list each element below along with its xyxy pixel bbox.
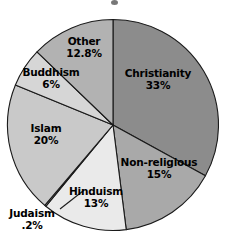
slice-label-other-name: Other	[53, 36, 115, 48]
slice-label-hinduism-name: Hinduism	[59, 186, 133, 198]
slice-label-judaism-value: .2%	[1, 220, 63, 232]
slice-label-islam: Islam 20%	[15, 123, 77, 147]
slice-label-nonreligious-name: Non-religious	[113, 157, 205, 169]
slice-label-nonreligious-value: 15%	[113, 169, 205, 181]
cropped-title-artifact	[111, 0, 118, 5]
slice-label-islam-value: 20%	[15, 135, 77, 147]
slice-label-buddhism-value: 6%	[14, 79, 88, 91]
slice-label-hinduism: Hinduism 13%	[59, 186, 133, 210]
slice-label-judaism: Judaism .2%	[1, 208, 63, 232]
slice-label-other-value: 12.8%	[53, 48, 115, 60]
slice-label-christianity-value: 33%	[118, 80, 198, 92]
slice-label-christianity-name: Christianity	[118, 68, 198, 80]
slice-label-buddhism: Buddhism 6%	[14, 67, 88, 91]
slice-label-buddhism-name: Buddhism	[14, 67, 88, 79]
slice-label-other: Other 12.8%	[53, 36, 115, 60]
slice-label-christianity: Christianity 33%	[118, 68, 198, 92]
slice-label-hinduism-value: 13%	[59, 198, 133, 210]
pie-chart: Christianity 33% Non-religious 15% Hindu…	[0, 0, 227, 245]
slice-label-judaism-name: Judaism	[1, 208, 63, 220]
slice-label-nonreligious: Non-religious 15%	[113, 157, 205, 181]
slice-label-islam-name: Islam	[15, 123, 77, 135]
